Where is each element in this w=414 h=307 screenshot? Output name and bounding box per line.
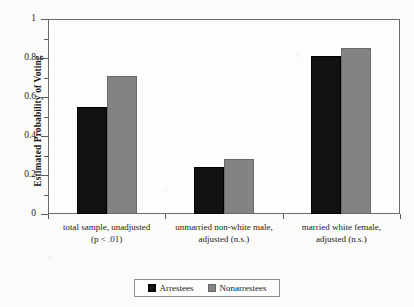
x-axis-label-group-3: married white female,adjusted (n.s.) [277, 222, 406, 245]
x-axis-label-line2: adjusted (n.s.) [159, 234, 288, 246]
black-square-swatch-icon [148, 284, 156, 292]
y-tick-label: 0 [0, 209, 36, 219]
x-tick [283, 214, 284, 219]
x-axis-label-line1: unmarried non-white male, [175, 222, 273, 232]
bar-nonarrestees-group-1 [107, 76, 137, 214]
y-tick-label: 0.6 [0, 92, 36, 102]
x-axis-label-line2: adjusted (n.s.) [277, 234, 406, 246]
y-tick-label: 1 [0, 14, 36, 24]
y-tick-label: 0.4 [0, 131, 36, 141]
x-axis-label-group-2: unmarried non-white male,adjusted (n.s.) [159, 222, 288, 245]
bar-chart-figure: Estimated Probability of Voting 00.20.40… [0, 0, 414, 307]
bar-arrestees-group-3 [311, 56, 341, 214]
chart-legend: Arrestees Nonarrestees [134, 279, 280, 297]
legend-label-arrestees: Arrestees [160, 283, 194, 293]
x-axis-label-line1: total sample, unadjusted [63, 222, 150, 232]
bar-nonarrestees-group-3 [341, 48, 371, 214]
x-tick [165, 214, 166, 219]
x-tick [48, 214, 49, 219]
bar-arrestees-group-1 [77, 107, 107, 214]
y-tick-label: 0.8 [0, 53, 36, 63]
x-axis-label-group-1: total sample, unadjusted(p < .01) [42, 222, 171, 245]
x-axis-label-line1: married white female, [302, 222, 381, 232]
legend-item-nonarrestees: Nonarrestees [208, 283, 267, 293]
plot-area [48, 19, 400, 214]
x-axis-label-line2: (p < .01) [42, 234, 171, 246]
gray-square-swatch-icon [208, 284, 216, 292]
y-axis-title: Estimated Probability of Voting [33, 21, 43, 221]
bar-nonarrestees-group-2 [224, 159, 254, 214]
x-tick [400, 214, 401, 219]
legend-item-arrestees: Arrestees [148, 283, 194, 293]
bar-arrestees-group-2 [194, 167, 224, 214]
y-tick-label: 0.2 [0, 170, 36, 180]
legend-label-nonarrestees: Nonarrestees [220, 283, 267, 293]
